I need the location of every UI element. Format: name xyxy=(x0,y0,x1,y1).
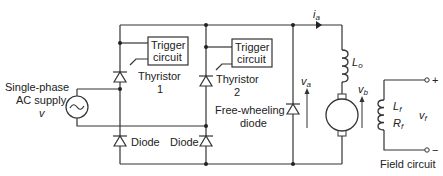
supply-label-line1: Single-phase xyxy=(5,81,69,93)
diode-2-icon xyxy=(199,136,213,146)
svg-text:diode: diode xyxy=(240,117,267,129)
svg-text:vf: vf xyxy=(419,109,428,123)
diode2-label: Diode xyxy=(170,136,199,148)
minus-label: − xyxy=(432,144,438,156)
svg-text:Thyristor: Thyristor xyxy=(216,73,259,85)
thyristor-2-icon xyxy=(199,76,213,86)
trigger2-line2: circuit xyxy=(237,53,266,65)
svg-text:Trigger: Trigger xyxy=(151,39,186,51)
current-arrow-icon xyxy=(316,21,322,29)
diode1-label: Diode xyxy=(131,136,160,148)
rf-label: R xyxy=(393,117,401,129)
supply-label-line2: AC supply xyxy=(16,94,67,106)
svg-text:Rf: Rf xyxy=(393,117,404,131)
freewheeling-diode-icon xyxy=(286,104,300,114)
svg-text:Lo: Lo xyxy=(352,56,363,70)
freewheel-line2: diode xyxy=(240,117,267,129)
svg-text:Lf: Lf xyxy=(393,100,402,114)
svg-text:Trigger: Trigger xyxy=(235,41,270,53)
trigger2-line1: Trigger xyxy=(235,41,270,53)
svg-text:2: 2 xyxy=(234,86,240,98)
svg-text:Single-phase: Single-phase xyxy=(5,81,69,93)
field-terminal-minus xyxy=(425,148,429,152)
svg-text:Diode: Diode xyxy=(131,136,160,148)
svg-text:−: − xyxy=(432,144,438,156)
svg-text:AC supply: AC supply xyxy=(16,94,67,106)
dc-motor-icon xyxy=(326,94,358,136)
circuit-diagram: Single-phase AC supply v Trigger circuit… xyxy=(0,0,443,176)
svg-text:circuit: circuit xyxy=(237,53,266,65)
trigger1-line2: circuit xyxy=(153,51,182,63)
supply-symbol: v xyxy=(39,107,46,119)
freewheel-line1: Free-wheeling xyxy=(215,104,285,116)
plus-label: + xyxy=(432,74,438,86)
thyristor2-line2: 2 xyxy=(234,86,240,98)
vb-arrow-icon xyxy=(360,96,365,128)
thyristor-1-icon xyxy=(113,72,127,82)
thyristor1-line2: 1 xyxy=(157,83,163,95)
svg-text:1: 1 xyxy=(157,83,163,95)
svg-text:circuit: circuit xyxy=(153,51,182,63)
inductor-lo-icon xyxy=(342,50,348,82)
thyristor1-line1: Thyristor xyxy=(138,70,181,82)
svg-text:ia: ia xyxy=(313,8,320,22)
ac-source-icon xyxy=(66,96,88,118)
thyristor2-line1: Thyristor xyxy=(216,73,259,85)
field-terminal-plus xyxy=(425,78,429,82)
svg-text:+: + xyxy=(432,74,438,86)
svg-text:vb: vb xyxy=(358,83,369,97)
field-winding-icon xyxy=(378,100,384,130)
svg-text:Free-wheeling: Free-wheeling xyxy=(215,104,285,116)
svg-text:va: va xyxy=(301,75,312,89)
svg-text:Diode: Diode xyxy=(170,136,199,148)
diode-1-icon xyxy=(113,136,127,146)
svg-text:Thyristor: Thyristor xyxy=(138,70,181,82)
field-circuit-caption: Field circuit xyxy=(380,158,436,170)
svg-text:Field circuit: Field circuit xyxy=(380,158,436,170)
trigger1-line1: Trigger xyxy=(151,39,186,51)
va-arrow-icon xyxy=(305,88,310,128)
svg-text:v: v xyxy=(39,107,46,119)
